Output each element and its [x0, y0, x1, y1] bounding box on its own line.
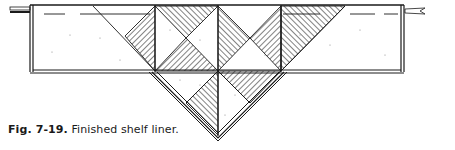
left-wall-bracket [10, 5, 33, 72]
right-wall-bracket [401, 5, 425, 72]
figure-number: Fig. 7-19. [8, 123, 68, 136]
figure-caption: Fig. 7-19. Finished shelf liner. [8, 122, 179, 136]
figure-description: Finished shelf liner. [68, 123, 179, 136]
